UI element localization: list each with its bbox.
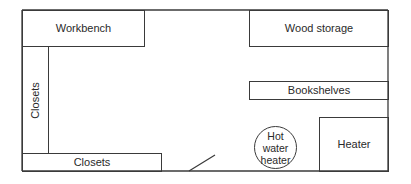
closets-left-area: Closets [22, 46, 49, 154]
heater-label: Heater [337, 139, 370, 150]
bookshelves-area: Bookshelves [249, 81, 389, 100]
workbench-label: Workbench [56, 23, 111, 34]
closets-bottom-area: Closets [22, 153, 162, 172]
hot-water-heater-label: Hot water heater [259, 130, 293, 166]
closets-left-label: Closets [30, 82, 41, 119]
wood-storage-area: Wood storage [249, 10, 389, 47]
hot-water-heater: Hot water heater [254, 126, 297, 169]
heater-area: Heater [319, 117, 389, 172]
workbench-area: Workbench [22, 10, 145, 47]
bookshelves-label: Bookshelves [288, 85, 350, 96]
wood-storage-label: Wood storage [285, 23, 353, 34]
door-line [189, 155, 215, 171]
floor-plan: Workbench Wood storage Closets Bookshelv… [0, 0, 411, 184]
closets-bottom-label: Closets [74, 157, 111, 168]
